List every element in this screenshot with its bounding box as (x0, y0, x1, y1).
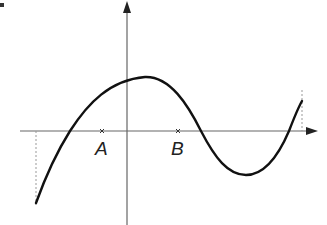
point-a-label: A (94, 138, 108, 159)
y-axis-arrow-icon (123, 1, 131, 13)
point-b-label: B (171, 138, 184, 159)
function-curve (36, 77, 302, 203)
corner-mark (0, 3, 4, 7)
x-axis-arrow-icon (306, 127, 318, 135)
function-graph: A B (0, 0, 327, 225)
